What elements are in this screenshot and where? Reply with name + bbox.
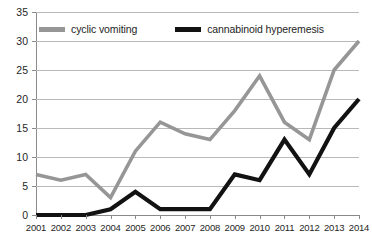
x-tickmark [235, 215, 236, 219]
y-axis-tick-label: 25 [0, 65, 28, 76]
x-axis-tick-label: 2007 [172, 222, 198, 233]
x-tickmark [284, 215, 285, 219]
x-axis-tick-label: 2010 [247, 222, 273, 233]
x-tickmark [160, 215, 161, 219]
x-axis-tick-label: 2004 [98, 222, 124, 233]
x-axis-tick-label: 2013 [321, 222, 347, 233]
y-axis-tick-label: 30 [0, 36, 28, 47]
x-tickmark [359, 215, 360, 219]
x-tickmark [185, 215, 186, 219]
x-axis-tick-label: 2006 [147, 222, 173, 233]
series-container [36, 12, 359, 215]
x-axis-tick-label: 2001 [23, 222, 49, 233]
x-axis-tick-label: 2005 [122, 222, 148, 233]
y-axis-tick-label: 0 [0, 210, 28, 221]
x-axis: 2001200220032004200520062007200820092010… [36, 215, 359, 241]
x-tickmark [86, 215, 87, 219]
x-axis-tick-label: 2003 [73, 222, 99, 233]
x-tickmark [210, 215, 211, 219]
x-axis-tick-label: 2012 [296, 222, 322, 233]
x-tickmark [334, 215, 335, 219]
y-axis-tick-label: 15 [0, 123, 28, 134]
y-axis-tick-label: 20 [0, 94, 28, 105]
y-axis-tick-label: 5 [0, 181, 28, 192]
y-axis-tick-label: 35 [0, 7, 28, 18]
x-tickmark [260, 215, 261, 219]
x-tickmark [135, 215, 136, 219]
x-axis-tick-label: 2002 [48, 222, 74, 233]
series-line-cannabinoid-hyperemesis [36, 99, 359, 215]
x-tickmark [36, 215, 37, 219]
x-tickmark [309, 215, 310, 219]
x-axis-tick-label: 2014 [346, 222, 372, 233]
y-axis-tick-label: 10 [0, 152, 28, 163]
x-axis-tick-label: 2009 [222, 222, 248, 233]
x-axis-tick-label: 2008 [197, 222, 223, 233]
x-tickmark [61, 215, 62, 219]
x-tickmark [111, 215, 112, 219]
x-axis-tick-label: 2011 [271, 222, 297, 233]
